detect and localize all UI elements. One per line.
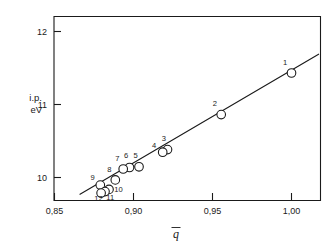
data-points [96, 69, 296, 198]
x-tick-label-0-85: 0,85 [46, 206, 64, 216]
regression-line [80, 54, 319, 194]
data-point-label-1: 1 [283, 58, 287, 67]
y-tick-label-12: 12 [37, 27, 47, 37]
x-tick-label-0-95: 0,95 [204, 206, 222, 216]
x-tick-labels: 0,85 0,90 0,95 1,00 [46, 206, 301, 216]
data-point-7 [119, 165, 128, 174]
y-axis-title-line1: i.p. [29, 92, 42, 103]
x-axis-ticks [55, 193, 292, 201]
y-axis-ticks [54, 32, 61, 178]
x-tick-label-1-00: 1,00 [283, 206, 301, 216]
y-axis-title: i.p. eV [29, 92, 42, 115]
data-point-label-11: 11 [106, 193, 114, 202]
figure-container: 12 11 10 0,85 0,90 0,95 1,00 i.p. eV q [0, 0, 334, 247]
data-point-label-10: 10 [114, 185, 122, 194]
data-point-label-6: 6 [124, 151, 128, 160]
data-point-label-8: 8 [107, 165, 111, 174]
y-axis-title-line2: eV [30, 104, 42, 115]
data-point-1 [287, 69, 296, 78]
fit-line-segment [80, 54, 319, 194]
data-point-2 [217, 110, 226, 119]
data-point-label-9: 9 [90, 173, 94, 182]
data-point-label-3: 3 [162, 134, 166, 143]
x-tick-label-0-90: 0,90 [125, 206, 143, 216]
x-axis-title: q [172, 227, 181, 241]
data-point-4 [158, 148, 167, 157]
data-point-8 [111, 176, 120, 185]
y-tick-label-10: 10 [37, 173, 47, 183]
data-point-label-2: 2 [213, 99, 217, 108]
scatter-plot: 12 11 10 0,85 0,90 0,95 1,00 i.p. eV q [0, 0, 334, 247]
data-point-label-5: 5 [133, 151, 137, 160]
x-axis-title-glyph: q [173, 227, 179, 241]
data-point-label-7: 7 [115, 154, 119, 163]
data-point-label-12: 12 [94, 194, 102, 203]
data-point-label-4: 4 [152, 141, 156, 150]
data-point-5 [135, 163, 144, 172]
